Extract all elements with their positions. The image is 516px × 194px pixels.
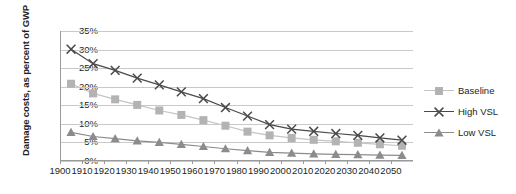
data-point-square <box>266 131 274 139</box>
data-point-cross <box>265 120 274 129</box>
triangle-icon <box>424 127 454 139</box>
square-icon <box>424 85 454 97</box>
data-point-square <box>67 80 75 88</box>
chart-legend: BaselineHigh VSLLow VSL <box>424 80 516 143</box>
data-point-cross <box>67 45 76 54</box>
series-line-baseline <box>71 84 402 146</box>
x-tick-label: 2050 <box>380 166 401 176</box>
x-tick-label: 1910 <box>71 166 92 176</box>
x-tick-label: 2020 <box>314 166 335 176</box>
data-point-square <box>244 128 252 136</box>
x-tick <box>104 161 105 164</box>
x-tick <box>192 161 193 164</box>
data-series-group <box>60 31 413 161</box>
data-point-triangle <box>66 128 75 136</box>
x-tick-label: 1950 <box>160 166 181 176</box>
data-point-square <box>177 111 185 119</box>
legend-label: Low VSL <box>458 127 496 138</box>
data-point-cross <box>221 103 230 112</box>
x-tick-label: 1970 <box>204 166 225 176</box>
data-point-square <box>133 101 141 109</box>
x-tick-label: 2010 <box>292 166 313 176</box>
data-point-square <box>111 95 119 103</box>
plot-area <box>60 31 413 161</box>
x-tick-label: 1990 <box>248 166 269 176</box>
legend-item-low-vsl[interactable]: Low VSL <box>424 122 516 143</box>
x-tick-label: 2000 <box>270 166 291 176</box>
x-tick-label: 1930 <box>116 166 137 176</box>
data-point-cross <box>155 80 164 89</box>
x-tick <box>214 161 215 164</box>
data-point-cross <box>177 88 186 97</box>
x-tick <box>259 161 260 164</box>
data-point-cross <box>243 112 252 121</box>
data-point-triangle <box>434 128 443 136</box>
y-axis-title: Damage costs, as percent of GWP <box>20 0 31 166</box>
data-point-square <box>89 89 97 97</box>
x-tick <box>148 161 149 164</box>
data-point-square <box>332 137 340 145</box>
data-point-cross <box>133 74 142 83</box>
x-tick <box>170 161 171 164</box>
x-tick <box>347 161 348 164</box>
x-tick-label: 1960 <box>182 166 203 176</box>
x-tick-label: 1980 <box>226 166 247 176</box>
data-point-cross <box>435 107 444 116</box>
series-line-low-vsl <box>71 132 402 155</box>
legend-item-high-vsl[interactable]: High VSL <box>424 101 516 122</box>
data-point-square <box>155 106 163 114</box>
legend-label: High VSL <box>458 106 498 117</box>
x-tick <box>237 161 238 164</box>
series-line-high-vsl <box>71 49 402 140</box>
x-tick <box>281 161 282 164</box>
legend-label: Baseline <box>458 85 494 96</box>
x-tick <box>325 161 326 164</box>
x-tick <box>82 161 83 164</box>
x-tick <box>369 161 370 164</box>
data-point-square <box>288 134 296 142</box>
chart-container: Damage costs, as percent of GWP 35%30%25… <box>0 0 516 194</box>
x-tick-label: 1920 <box>94 166 115 176</box>
x-tick <box>391 161 392 164</box>
data-point-square <box>199 116 207 124</box>
x-tick <box>126 161 127 164</box>
x-tick <box>303 161 304 164</box>
x-tick <box>60 161 61 164</box>
x-tick-label: 1940 <box>138 166 159 176</box>
data-point-square <box>435 87 443 95</box>
data-point-square <box>221 122 229 130</box>
data-point-cross <box>89 59 98 68</box>
data-point-square <box>354 139 362 147</box>
data-point-cross <box>199 94 208 103</box>
data-point-cross <box>111 66 120 75</box>
cross-icon <box>424 106 454 118</box>
x-tick-label: 1900 <box>49 166 70 176</box>
legend-item-baseline[interactable]: Baseline <box>424 80 516 101</box>
x-tick-label: 2040 <box>358 166 379 176</box>
x-tick-label: 2030 <box>336 166 357 176</box>
data-point-square <box>310 136 318 144</box>
